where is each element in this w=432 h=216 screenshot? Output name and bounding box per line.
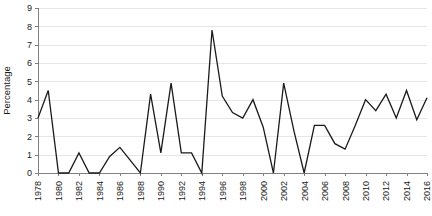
x-tick-label-1978: 1978: [33, 181, 43, 201]
x-tick-label-2014: 2014: [402, 181, 412, 201]
x-tick-label-2002: 2002: [279, 181, 289, 201]
y-axis-title: Percentage: [1, 66, 12, 115]
x-tick-label-1984: 1984: [95, 181, 105, 201]
y-tick-label-2: 2: [27, 132, 32, 142]
x-tick-label-2012: 2012: [381, 181, 391, 201]
y-tick-label-4: 4: [27, 95, 32, 105]
y-tick-label-1: 1: [27, 150, 32, 160]
x-tick-label-2000: 2000: [259, 181, 269, 201]
x-tick-label-2008: 2008: [341, 181, 351, 201]
x-tick-label-1986: 1986: [115, 181, 125, 201]
y-tick-label-0: 0: [27, 168, 32, 178]
x-tick-label-1996: 1996: [218, 181, 228, 201]
x-tick-label-1992: 1992: [177, 181, 187, 201]
line-chart: 0123456789 19781980198219841986198819901…: [0, 0, 432, 216]
x-tick-label-1994: 1994: [197, 181, 207, 201]
x-tick-label-2004: 2004: [300, 181, 310, 201]
x-tick-label-1980: 1980: [54, 181, 64, 201]
chart-canvas: 0123456789 19781980198219841986198819901…: [0, 0, 432, 216]
x-tick-label-1982: 1982: [74, 181, 84, 201]
y-tick-label-7: 7: [27, 40, 32, 50]
y-tick-label-8: 8: [27, 22, 32, 32]
x-tick-label-2010: 2010: [361, 181, 371, 201]
y-tick-label-9: 9: [27, 3, 32, 13]
x-tick-label-2006: 2006: [320, 181, 330, 201]
y-tick-label-5: 5: [27, 77, 32, 87]
x-tick-label-1988: 1988: [136, 181, 146, 201]
x-tick-label-1998: 1998: [238, 181, 248, 201]
y-tick-label-3: 3: [27, 113, 32, 123]
x-tick-label-2016: 2016: [422, 181, 432, 201]
x-tick-label-1990: 1990: [156, 181, 166, 201]
y-tick-label-6: 6: [27, 58, 32, 68]
